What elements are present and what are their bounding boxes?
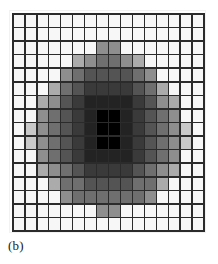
pixel-cell [133, 191, 143, 203]
pixel-cell [38, 83, 48, 95]
pixel-cell [85, 55, 95, 67]
pixel-cell [193, 69, 203, 81]
pixel-cell [26, 83, 36, 95]
pixel-cell [169, 69, 179, 81]
pixel-cell [181, 69, 191, 81]
pixel-cell [73, 42, 83, 54]
pixel-cell [109, 42, 119, 54]
pixel-cell [157, 15, 167, 27]
pixel-cell [121, 28, 131, 40]
pixel-cell [145, 178, 155, 190]
pixel-cell [181, 42, 191, 54]
pixel-cell [181, 137, 191, 149]
pixel-cell [49, 69, 59, 81]
pixel-cell [193, 123, 203, 135]
pixel-cell [181, 110, 191, 122]
pixel-cell [97, 42, 107, 54]
pixel-cell [26, 164, 36, 176]
pixel-cell [73, 164, 83, 176]
pixel-cell [157, 83, 167, 95]
pixel-cell [26, 55, 36, 67]
pixel-cell [193, 42, 203, 54]
pixel-cell [169, 83, 179, 95]
pixel-cell [73, 178, 83, 190]
pixel-cell [73, 83, 83, 95]
pixel-cell [73, 123, 83, 135]
pixel-cell [61, 123, 71, 135]
pixel-cell [38, 42, 48, 54]
pixel-cell [85, 96, 95, 108]
pixel-cell [61, 42, 71, 54]
pixel-cell [26, 110, 36, 122]
pixel-cell [97, 15, 107, 27]
pixel-cell [121, 96, 131, 108]
pixel-cell [14, 164, 24, 176]
pixel-cell [109, 150, 119, 162]
pixel-cell [85, 164, 95, 176]
pixel-cell [157, 110, 167, 122]
pixel-cell [193, 110, 203, 122]
pixel-cell [14, 110, 24, 122]
pixel-cell [38, 28, 48, 40]
pixel-cell [133, 69, 143, 81]
pixel-cell [193, 28, 203, 40]
pixel-cell [157, 164, 167, 176]
pixel-cell [61, 218, 71, 230]
pixel-cell [49, 123, 59, 135]
pixel-cell [145, 42, 155, 54]
pixel-cell [133, 42, 143, 54]
pixel-cell [14, 218, 24, 230]
pixel-cell [14, 42, 24, 54]
figure-caption: (b) [8, 238, 24, 254]
pixel-cell [145, 69, 155, 81]
pixel-cell [169, 191, 179, 203]
pixel-cell [49, 218, 59, 230]
pixel-cell [109, 15, 119, 27]
pixel-cell [193, 218, 203, 230]
pixel-cell [85, 110, 95, 122]
pixel-cell [145, 83, 155, 95]
pixel-cell [14, 150, 24, 162]
pixel-cell [85, 69, 95, 81]
pixel-cell [38, 178, 48, 190]
pixel-cell [49, 164, 59, 176]
pixel-cell [97, 137, 107, 149]
pixel-cell [121, 110, 131, 122]
pixel-cell [49, 150, 59, 162]
pixel-cell [73, 15, 83, 27]
pixel-cell [61, 205, 71, 217]
heatmap-frame [9, 10, 206, 233]
pixel-cell [169, 42, 179, 54]
pixel-cell [85, 15, 95, 27]
pixel-cell [157, 191, 167, 203]
pixel-cell [38, 218, 48, 230]
pixel-cell [181, 83, 191, 95]
pixel-cell [38, 15, 48, 27]
pixel-cell [85, 123, 95, 135]
pixel-cell [73, 137, 83, 149]
pixel-cell [97, 83, 107, 95]
pixel-cell [109, 123, 119, 135]
pixel-cell [97, 28, 107, 40]
pixel-cell [157, 218, 167, 230]
pixel-cell [14, 83, 24, 95]
pixel-cell [169, 150, 179, 162]
pixel-cell [49, 137, 59, 149]
pixel-cell [73, 191, 83, 203]
pixel-cell [49, 15, 59, 27]
pixel-cell [61, 28, 71, 40]
pixel-cell [133, 164, 143, 176]
pixel-cell [169, 110, 179, 122]
pixel-cell [61, 191, 71, 203]
pixel-cell [61, 15, 71, 27]
pixel-cell [181, 218, 191, 230]
pixel-cell [169, 178, 179, 190]
pixel-cell [85, 150, 95, 162]
pixel-cell [121, 150, 131, 162]
pixel-cell [73, 69, 83, 81]
pixel-cell [169, 15, 179, 27]
pixel-cell [121, 15, 131, 27]
pixel-cell [26, 123, 36, 135]
pixel-cell [14, 137, 24, 149]
pixel-cell [109, 164, 119, 176]
